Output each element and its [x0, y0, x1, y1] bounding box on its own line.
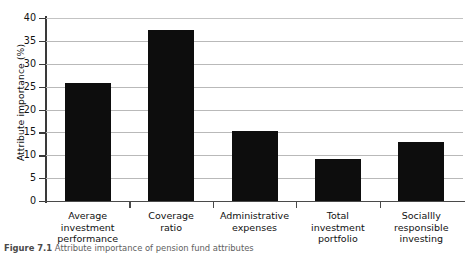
caption-text: Attribute importance of pension fund att… [55, 243, 254, 253]
y-tick-label: 5 [6, 173, 36, 183]
x-category-label: Administrativeexpenses [213, 210, 296, 233]
y-tick-label: 25 [6, 82, 36, 92]
plot-area [46, 18, 463, 201]
y-tick-mark [39, 201, 45, 202]
y-tick-mark [39, 64, 45, 65]
bar [232, 131, 278, 201]
y-tick-label: 10 [6, 150, 36, 160]
bar [148, 30, 194, 201]
y-tick-label: 0 [6, 196, 36, 206]
y-tick-label: 40 [6, 13, 36, 23]
x-tick-mark [129, 202, 130, 208]
x-tick-mark [380, 202, 381, 208]
y-tick-label: 15 [6, 127, 36, 137]
bar [398, 142, 444, 202]
x-category-label-line: Total [296, 210, 379, 222]
x-category-label-line: expenses [213, 222, 296, 234]
x-category-label-line: investment [46, 222, 129, 234]
x-category-label: Coverageratio [129, 210, 212, 233]
figure-caption: Figure 7.1 Attribute importance of pensi… [4, 243, 464, 253]
caption-label: Figure 7.1 [4, 243, 52, 253]
y-tick-mark [39, 155, 45, 156]
x-category-label: Totalinvestmentportfolio [296, 210, 379, 245]
y-tick-mark [39, 132, 45, 133]
x-category-label-line: Average [46, 210, 129, 222]
x-category-label-line: ratio [129, 222, 212, 234]
gridline [46, 41, 463, 42]
x-category-label: Socialllyresponsibleinvesting [380, 210, 463, 245]
bar [65, 83, 111, 201]
x-category-label-line: Sociallly [380, 210, 463, 222]
y-tick-label: 20 [6, 105, 36, 115]
gridline [46, 18, 463, 19]
x-category-label-line: Coverage [129, 210, 212, 222]
x-category-label: Averageinvestmentperformance [46, 210, 129, 245]
y-axis-tick-labels: 0510152025303540 [0, 0, 36, 251]
x-tick-mark [296, 202, 297, 208]
x-axis-line [40, 201, 465, 202]
bar [315, 159, 361, 201]
y-tick-mark [39, 41, 45, 42]
y-tick-mark [39, 18, 45, 19]
x-tick-mark [213, 202, 214, 208]
gridline [46, 64, 463, 65]
y-tick-label: 35 [6, 36, 36, 46]
x-category-label-line: Administrative [213, 210, 296, 222]
x-category-label-line: investment [296, 222, 379, 234]
y-tick-label: 30 [6, 59, 36, 69]
y-tick-mark [39, 110, 45, 111]
y-tick-mark [39, 178, 45, 179]
y-tick-mark [39, 87, 45, 88]
x-category-label-line: responsible [380, 222, 463, 234]
